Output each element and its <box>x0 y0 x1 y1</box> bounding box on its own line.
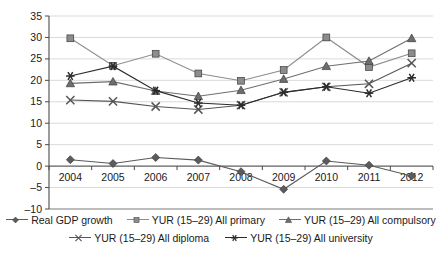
y-axis-tick-label: 30 <box>30 31 42 43</box>
legend-row-2: YUR (15–29) All diploma YUR (15–29) All … <box>69 232 373 244</box>
y-axis-tick-label: –10 <box>24 203 42 215</box>
legend-label: YUR (15–29) All university <box>250 232 373 244</box>
line-chart-svg: 35302520151050–5–10200420052006200720082… <box>0 0 442 215</box>
y-axis-tick-label: 25 <box>30 52 42 64</box>
y-axis-tick-label: 0 <box>36 160 42 172</box>
legend-marker-triangle-icon <box>279 214 301 226</box>
x-axis-tick-label: 2004 <box>59 171 83 183</box>
legend-marker-square-icon <box>127 214 149 226</box>
legend-label: YUR (15–29) All primary <box>152 214 265 226</box>
y-axis-tick-label: 20 <box>30 74 42 86</box>
chart-legend: Real GDP growth YUR (15–29) All primary … <box>0 214 442 244</box>
x-axis-tick-label: 2007 <box>187 171 211 183</box>
legend-marker-cross-icon <box>69 232 91 244</box>
legend-item-real-gdp-growth: Real GDP growth <box>6 214 113 226</box>
plot-area: 35302520151050–5–10200420052006200720082… <box>0 0 442 215</box>
chart-figure: 35302520151050–5–10200420052006200720082… <box>0 0 442 275</box>
legend-item-yur-all-university: YUR (15–29) All university <box>225 232 373 244</box>
y-axis-tick-label: 5 <box>36 138 42 150</box>
legend-label: Real GDP growth <box>31 214 113 226</box>
legend-label: YUR (15–29) All compulsory <box>304 214 436 226</box>
y-axis-tick-label: 15 <box>30 95 42 107</box>
y-axis-tick-label: 10 <box>30 117 42 129</box>
y-axis-tick-label: 35 <box>30 10 42 22</box>
x-axis-tick-label: 2009 <box>272 171 296 183</box>
x-axis-tick-label: 2011 <box>358 171 381 183</box>
legend-marker-asterisk-icon <box>225 232 247 244</box>
legend-marker-diamond-icon <box>6 214 28 226</box>
series-yur-15-29-all-compulsory <box>66 34 416 100</box>
x-axis-tick-label: 2005 <box>101 171 125 183</box>
legend-item-yur-all-compulsory: YUR (15–29) All compulsory <box>279 214 436 226</box>
x-axis-tick-label: 2006 <box>144 171 168 183</box>
y-axis-tick-label: –5 <box>30 181 42 193</box>
x-axis-tick-label: 2010 <box>315 171 339 183</box>
legend-row-1: Real GDP growth YUR (15–29) All primary … <box>6 214 436 226</box>
legend-item-yur-all-diploma: YUR (15–29) All diploma <box>69 232 209 244</box>
legend-label: YUR (15–29) All diploma <box>94 232 209 244</box>
legend-item-yur-all-primary: YUR (15–29) All primary <box>127 214 265 226</box>
